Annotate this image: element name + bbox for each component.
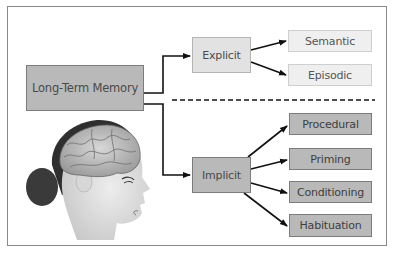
node-conditioning: Conditioning [289, 181, 372, 203]
node-label: Implicit [202, 169, 241, 182]
node-label: Priming [310, 153, 350, 166]
node-priming: Priming [289, 148, 372, 170]
node-implicit: Implicit [192, 157, 251, 193]
node-long-term-memory: Long-Term Memory [26, 65, 144, 111]
head-brain-illustration [22, 115, 152, 245]
node-procedural: Procedural [289, 113, 372, 135]
node-label: Long-Term Memory [32, 81, 138, 95]
node-label: Procedural [302, 118, 359, 131]
node-label: Episodic [308, 69, 352, 82]
node-label: Habituation [300, 219, 362, 232]
node-semantic: Semantic [288, 30, 372, 52]
node-label: Conditioning [297, 186, 364, 199]
node-habituation: Habituation [289, 214, 372, 237]
node-explicit: Explicit [192, 37, 251, 73]
node-episodic: Episodic [288, 64, 372, 86]
node-label: Explicit [202, 49, 240, 62]
node-label: Semantic [305, 35, 355, 48]
